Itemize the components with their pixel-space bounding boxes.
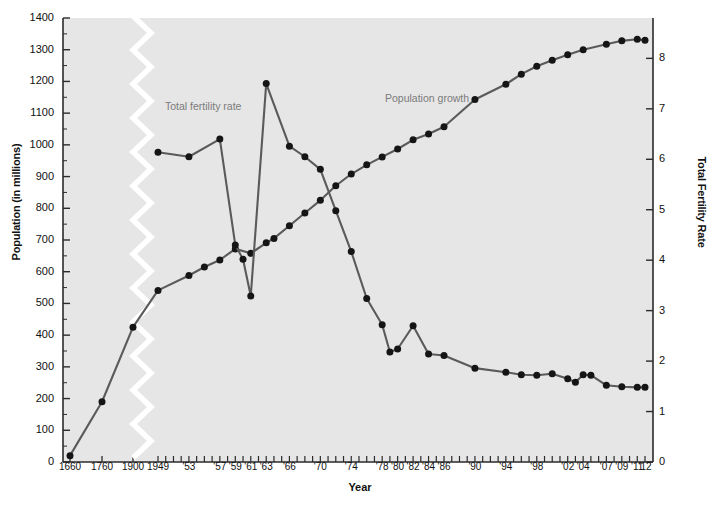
data-point (394, 345, 401, 352)
data-point (502, 369, 509, 376)
data-point (425, 351, 432, 358)
population-fertility-chart: Population (in millions) Total Fertility… (0, 0, 718, 505)
data-point (386, 349, 393, 356)
data-point (642, 384, 649, 391)
x-axis-tick-12: '12 (625, 461, 665, 472)
data-point (533, 372, 540, 379)
y-axis-left-tick: 0 (20, 455, 54, 467)
y-axis-left-tick: 300 (20, 360, 54, 372)
data-point (580, 46, 587, 53)
data-point (379, 321, 386, 328)
data-point (286, 143, 293, 150)
y-axis-right-tick: 7 (659, 102, 679, 114)
data-point (634, 36, 641, 43)
annotation-total-fertility-rate: Total fertility rate (165, 100, 241, 112)
data-point (603, 382, 610, 389)
data-point (263, 239, 270, 246)
data-point (332, 182, 339, 189)
y-axis-left-tick: 800 (20, 201, 54, 213)
data-point (201, 263, 208, 270)
data-point (247, 293, 254, 300)
data-point (332, 207, 339, 214)
data-point (518, 371, 525, 378)
y-axis-left-tick: 100 (20, 423, 54, 435)
data-point (155, 287, 162, 294)
y-axis-left-tick: 1300 (20, 43, 54, 55)
data-point (410, 322, 417, 329)
data-point (216, 256, 223, 263)
data-point (572, 379, 579, 386)
y-axis-left-tick: 400 (20, 328, 54, 340)
y-axis-right-tick: 3 (659, 304, 679, 316)
annotation-population-growth: Population growth (385, 92, 469, 104)
y-axis-left-tick: 1200 (20, 74, 54, 86)
data-point (67, 452, 74, 459)
data-point (441, 352, 448, 359)
data-point (263, 80, 270, 87)
y-axis-left-tick: 1100 (20, 106, 54, 118)
data-point (232, 242, 239, 249)
data-point (618, 37, 625, 44)
y-axis-right-tick: 1 (659, 405, 679, 417)
data-point (564, 51, 571, 58)
data-point (240, 256, 247, 263)
data-point (425, 131, 432, 138)
y-axis-right-tick: 4 (659, 253, 679, 265)
data-point (518, 71, 525, 78)
data-point (317, 197, 324, 204)
data-point (549, 370, 556, 377)
data-point (634, 384, 641, 391)
y-axis-right-tick: 5 (659, 203, 679, 215)
data-point (270, 235, 277, 242)
data-point (348, 248, 355, 255)
data-point (130, 324, 137, 331)
y-axis-right-title: Total Fertility Rate (696, 132, 708, 272)
data-point (471, 365, 478, 372)
data-point (348, 171, 355, 178)
data-point (642, 37, 649, 44)
data-point (301, 153, 308, 160)
data-point (99, 398, 106, 405)
data-point (564, 375, 571, 382)
data-point (317, 166, 324, 173)
data-point (216, 136, 223, 143)
y-axis-left-tick: 900 (20, 170, 54, 182)
y-axis-right-tick: 6 (659, 152, 679, 164)
data-point (155, 149, 162, 156)
data-point (185, 272, 192, 279)
data-point (502, 81, 509, 88)
data-point (471, 96, 478, 103)
data-point (603, 41, 610, 48)
y-axis-left-tick: 500 (20, 296, 54, 308)
data-point (363, 161, 370, 168)
data-point (286, 222, 293, 229)
data-point (549, 57, 556, 64)
chart-canvas (0, 0, 718, 505)
data-point (379, 153, 386, 160)
data-point (580, 371, 587, 378)
y-axis-left-tick: 1400 (20, 11, 54, 23)
data-point (587, 372, 594, 379)
y-axis-left-tick: 200 (20, 392, 54, 404)
data-point (185, 153, 192, 160)
y-axis-left-tick: 700 (20, 233, 54, 245)
y-axis-right-tick: 8 (659, 51, 679, 63)
data-point (394, 145, 401, 152)
y-axis-left-tick: 1000 (20, 138, 54, 150)
data-point (301, 210, 308, 217)
y-axis-right-tick: 2 (659, 354, 679, 366)
data-point (618, 383, 625, 390)
data-point (410, 136, 417, 143)
data-point (363, 295, 370, 302)
y-axis-left-tick: 600 (20, 265, 54, 277)
x-axis-title: Year (300, 481, 420, 493)
data-point (533, 63, 540, 70)
data-point (441, 123, 448, 130)
